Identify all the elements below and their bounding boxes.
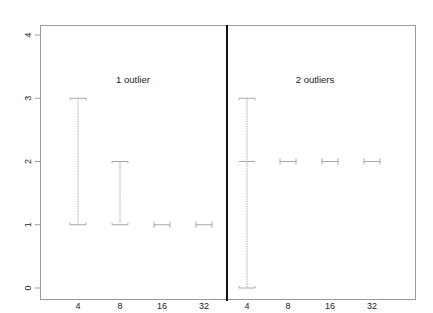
- panel-1: 1 outlier481632: [70, 74, 212, 311]
- error-bar: [280, 159, 296, 165]
- x-tick-label: 4: [75, 301, 80, 311]
- x-tick-label: 8: [285, 301, 290, 311]
- y-tick-label: 0: [23, 285, 33, 290]
- panel-2: 2 outliers481632: [239, 74, 380, 311]
- error-bar: [196, 222, 212, 228]
- error-bar: [322, 159, 338, 165]
- error-bar: [70, 98, 86, 225]
- error-bar: [112, 162, 128, 225]
- y-tick-label: 4: [23, 32, 33, 37]
- y-axis: 01234: [23, 32, 40, 290]
- x-tick-label: 32: [199, 301, 209, 311]
- panels: 1 outlier4816322 outliers481632: [70, 74, 380, 311]
- x-tick-label: 16: [157, 301, 167, 311]
- x-tick-label: 32: [367, 301, 377, 311]
- chart-canvas: 01234 1 outlier4816322 outliers481632: [0, 0, 433, 313]
- x-tick-label: 8: [117, 301, 122, 311]
- y-tick-label: 2: [23, 159, 33, 164]
- y-tick-label: 1: [23, 222, 33, 227]
- x-tick-label: 16: [325, 301, 335, 311]
- error-bar: [154, 222, 170, 228]
- x-tick-label: 4: [244, 301, 249, 311]
- error-bar: [364, 159, 380, 165]
- y-tick-label: 3: [23, 96, 33, 101]
- error-bar: [239, 98, 255, 288]
- panel-title: 2 outliers: [296, 74, 335, 85]
- panel-title: 1 outlier: [116, 74, 150, 85]
